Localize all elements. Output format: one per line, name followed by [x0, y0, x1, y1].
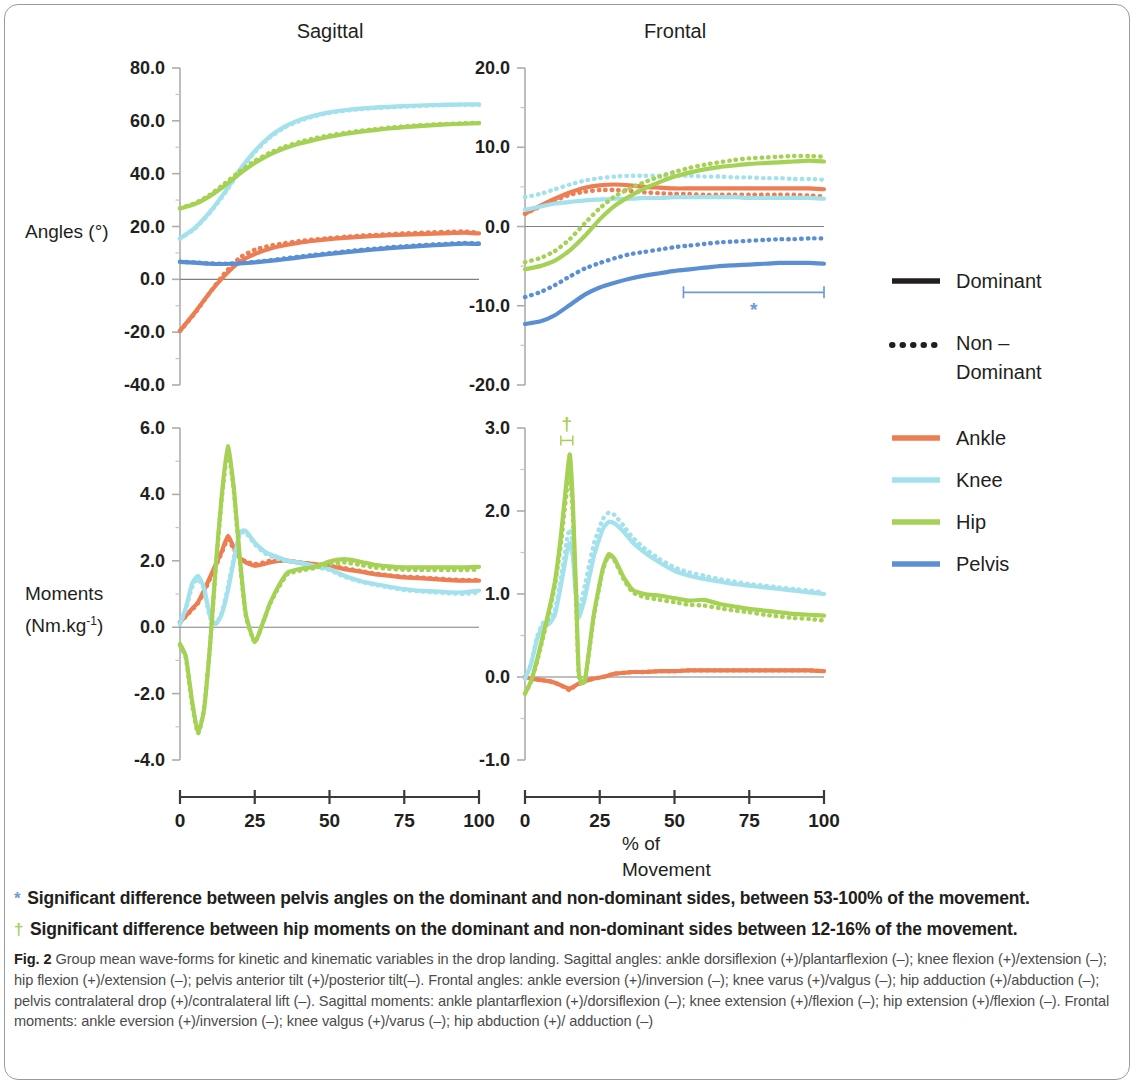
x-tick-label: 0 — [520, 810, 531, 831]
star-marker: * — [14, 889, 22, 908]
figure-caption-text: Group mean wave-forms for kinetic and ki… — [14, 951, 1109, 1029]
x-tick-label: 75 — [739, 810, 761, 831]
legend-label-knee: Knee — [956, 469, 1003, 491]
y-tick-label: 1.0 — [485, 584, 510, 604]
x-axis-title-line1: % of — [622, 833, 661, 854]
y-tick-label: 10.0 — [475, 137, 510, 157]
dagger-marker: † — [14, 920, 25, 939]
moments-axis-title-sup: -1 — [86, 614, 97, 628]
y-tick-label: 60.0 — [130, 111, 165, 131]
x-tick-label: 100 — [463, 810, 495, 831]
figure-caption: Fig. 2 Group mean wave-forms for kinetic… — [14, 949, 1126, 1032]
panel-title-sagittal: Sagittal — [297, 20, 364, 42]
y-tick-label: -10.0 — [469, 296, 510, 316]
series-hip-nondominant — [525, 156, 824, 262]
x-tick-label: 75 — [394, 810, 416, 831]
y-tick-label: -20.0 — [124, 322, 165, 342]
legend-label-pelvis: Pelvis — [956, 553, 1009, 575]
y-tick-label: 2.0 — [485, 501, 510, 521]
series-pelvis-nondominant — [525, 238, 824, 297]
y-tick-label: 0.0 — [485, 217, 510, 237]
legend-label-non-dominant: Non – — [956, 332, 1010, 354]
y-tick-label: -20.0 — [469, 375, 510, 395]
y-tick-label: 40.0 — [130, 164, 165, 184]
moments-axis-title-line2: (Nm.kg-1) — [25, 614, 103, 636]
x-tick-label: 0 — [175, 810, 186, 831]
series-knee-dominant — [525, 197, 824, 210]
moments-axis-title-line1: Moments — [25, 583, 103, 604]
x-tick-label: 100 — [808, 810, 840, 831]
figure-number-label: Fig. 2 — [14, 951, 52, 967]
y-tick-label: 6.0 — [140, 418, 165, 438]
panel-title-frontal: Frontal — [644, 20, 706, 42]
series-pelvis-nondominant — [180, 243, 479, 264]
moments-axis-title-end: ) — [97, 615, 103, 636]
y-tick-label: -2.0 — [134, 684, 165, 704]
legend-label-hip: Hip — [956, 511, 986, 533]
x-axis-title-line2: Movement — [622, 859, 711, 880]
y-tick-label: 0.0 — [485, 667, 510, 687]
legend-label-non-dominant-line2: Dominant — [956, 361, 1042, 383]
y-tick-label: 4.0 — [140, 484, 165, 504]
star-note-text: Significant difference between pelvis an… — [27, 888, 1030, 908]
y-tick-label: -1.0 — [479, 750, 510, 770]
y-tick-label: 20.0 — [130, 217, 165, 237]
series-hip-nondominant — [525, 473, 824, 693]
y-tick-label: -4.0 — [134, 750, 165, 770]
figure-plot-area: -40.0-20.00.020.040.060.080.0-20.0-10.00… — [0, 0, 1136, 884]
panel-frontal-angles: -20.0-10.00.010.020.0* — [469, 58, 824, 395]
y-tick-label: -40.0 — [124, 375, 165, 395]
y-tick-label: 0.0 — [140, 269, 165, 289]
y-tick-label: 2.0 — [140, 551, 165, 571]
x-tick-label: 50 — [319, 810, 340, 831]
dagger-note-text: Significant difference between hip momen… — [30, 919, 1017, 939]
figure-svg: -40.0-20.00.020.040.060.080.0-20.0-10.00… — [0, 0, 1136, 884]
legend-label-ankle: Ankle — [956, 427, 1006, 449]
caption-area: * Significant difference between pelvis … — [14, 884, 1126, 1080]
panel-sagittal-angles: -40.0-20.00.020.040.060.080.0 — [124, 58, 479, 395]
significance-marker-dagger: † — [562, 413, 573, 434]
significance-note-dagger: † Significant difference between hip mom… — [14, 915, 1126, 944]
series-knee-nondominant — [525, 513, 824, 679]
y-tick-label: 3.0 — [485, 418, 510, 438]
series-hip-dominant — [180, 446, 479, 732]
significance-note-star: * Significant difference between pelvis … — [14, 884, 1126, 913]
series-hip-dominant — [525, 161, 824, 270]
y-tick-label: 80.0 — [130, 58, 165, 78]
x-tick-label: 25 — [244, 810, 266, 831]
series-pelvis-dominant — [525, 263, 824, 324]
legend-label-dominant: Dominant — [956, 270, 1042, 292]
panel-sagittal-moments: -4.0-2.00.02.04.06.00255075100 — [134, 418, 495, 831]
panel-frontal-moments: -1.00.01.02.03.00255075100† — [479, 413, 840, 831]
x-tick-label: 50 — [664, 810, 685, 831]
angles-axis-title: Angles (°) — [25, 221, 109, 242]
y-tick-label: 20.0 — [475, 58, 510, 78]
y-tick-label: 0.0 — [140, 617, 165, 637]
x-tick-label: 25 — [589, 810, 611, 831]
legend: DominantNon –DominantAnkleKneeHipPelvis — [892, 270, 1042, 575]
significance-marker-star: * — [750, 299, 758, 320]
